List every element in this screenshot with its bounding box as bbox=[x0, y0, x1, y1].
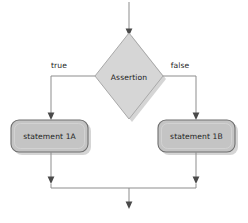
edge-true-branch bbox=[48, 76, 95, 120]
false-branch-arrowhead bbox=[193, 113, 200, 121]
edge-entry bbox=[126, 2, 133, 36]
edge-exit bbox=[126, 188, 133, 209]
false-branch-line bbox=[163, 76, 196, 114]
true-branch-arrowhead bbox=[48, 113, 55, 121]
flowchart-diagram: Assertion true false statement 1A statem… bbox=[0, 0, 248, 223]
statement-1b-node[interactable]: statement 1B bbox=[158, 120, 238, 155]
true-branch-line bbox=[51, 76, 95, 114]
edge-false-branch bbox=[163, 76, 199, 120]
true-branch-label: true bbox=[51, 61, 67, 70]
edge-false-merge bbox=[193, 152, 200, 184]
false-branch-label: false bbox=[171, 61, 190, 70]
edge-true-merge bbox=[48, 152, 55, 184]
false-merge-arrowhead bbox=[193, 177, 200, 185]
exit-arrowhead bbox=[126, 202, 133, 210]
statement-1b-label: statement 1B bbox=[170, 132, 223, 141]
statement-1a-label: statement 1A bbox=[23, 132, 76, 141]
decision-node[interactable]: Assertion bbox=[95, 33, 166, 122]
flowchart-canvas: Assertion true false statement 1A statem… bbox=[0, 0, 248, 223]
statement-1a-node[interactable]: statement 1A bbox=[11, 120, 91, 155]
decision-label: Assertion bbox=[111, 73, 147, 82]
merge-bar bbox=[51, 184, 196, 188]
true-merge-arrowhead bbox=[48, 177, 55, 185]
